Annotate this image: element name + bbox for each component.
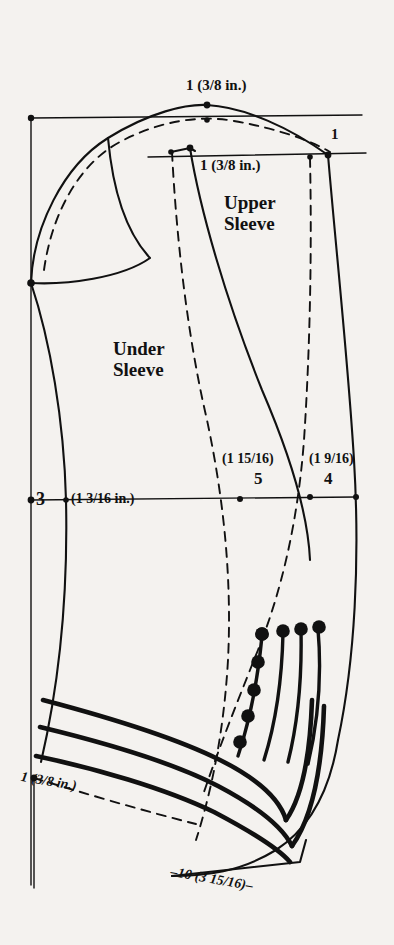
elbow-left-number-label: 5 — [254, 470, 263, 488]
button-mark — [255, 627, 269, 641]
elbow-right-number-label: 4 — [324, 470, 333, 488]
upper-sleeve-title-line1: Upper — [224, 192, 276, 213]
upper-sleeve-title-line2: Sleeve — [224, 213, 276, 234]
upper-sleeve-measure-label: 1 (3/8 in.) — [200, 158, 260, 174]
node-dot — [27, 279, 35, 287]
node-dot — [28, 115, 34, 121]
node-dot — [307, 494, 313, 500]
button-mark — [294, 622, 308, 636]
node-dot — [187, 145, 194, 152]
node-dot — [204, 102, 211, 109]
button-mark — [312, 620, 326, 634]
node-dot — [353, 494, 359, 500]
button-mark — [276, 624, 290, 638]
top-apex-measure-label: 1 (3/8 in.) — [186, 78, 246, 94]
button-mark — [233, 735, 247, 749]
under-sleeve-title-line2: Sleeve — [113, 359, 165, 380]
button-mark — [241, 709, 255, 723]
elbow-right-fraction-label: (1 9/16) — [309, 452, 354, 467]
waist-measure-label: (1 3/16 in.) — [71, 492, 134, 507]
right-corner-mark-label: 1 — [331, 127, 339, 143]
node-dot — [168, 149, 174, 155]
waist-number-label: 3 — [36, 490, 45, 509]
upper-sleeve-title: Upper Sleeve — [224, 192, 276, 235]
node-dot — [28, 497, 35, 504]
node-dot — [307, 154, 313, 160]
button-mark — [247, 683, 261, 697]
pattern-diagram-page: 1 (3/8 in.) 1 1 (3/8 in.) Upper Sleeve U… — [0, 0, 394, 945]
node-dot — [325, 152, 332, 159]
under-sleeve-title-line1: Under — [113, 338, 165, 359]
node-dot — [63, 497, 69, 503]
under-sleeve-title: Under Sleeve — [113, 338, 165, 381]
button-mark — [251, 655, 265, 669]
node-dot — [237, 496, 243, 502]
node-dot — [204, 117, 210, 123]
elbow-left-fraction-label: (1 15/16) — [222, 452, 274, 467]
